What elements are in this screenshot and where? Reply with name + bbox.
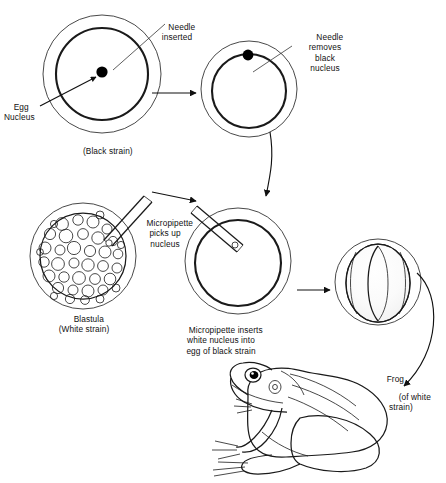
stage-5-embryo bbox=[335, 239, 421, 325]
frog-body bbox=[248, 368, 388, 457]
nuclear-transplantation-figure: Needle inserted Egg Nucleus (Black strai… bbox=[0, 0, 446, 483]
label-micropipette-inserts: Micropipette inserts white nucleus into … bbox=[163, 315, 279, 366]
label-needle-inserted: Needle inserted bbox=[140, 12, 214, 53]
label-needle-removes-black-nucleus: Needle removes black nucleus bbox=[292, 22, 358, 83]
stage-3-blastula bbox=[30, 203, 136, 309]
label-micropipette-picks-up: Micropipette picks up nucleus bbox=[128, 208, 202, 259]
frog-front-leg bbox=[236, 410, 272, 447]
diagram-canvas bbox=[0, 0, 446, 483]
arrow-pipette-transfer bbox=[152, 192, 196, 201]
label-egg-nucleus: Egg Nucleus bbox=[4, 92, 52, 133]
label-of-white-strain: (of white strain) bbox=[389, 382, 445, 423]
removed-black-nucleus bbox=[243, 50, 254, 61]
stage-6-adult-frog bbox=[212, 362, 387, 476]
frog-tympanum bbox=[269, 381, 281, 394]
stage-2-enucleation bbox=[201, 41, 297, 137]
frog-hind-leg bbox=[291, 416, 379, 472]
label-blastula-white-strain: Blastula (White strain) bbox=[38, 304, 130, 345]
egg-nucleus-black bbox=[96, 66, 107, 77]
arrow-stage2-to-stage4 bbox=[266, 132, 272, 196]
label-black-strain: (Black strain) bbox=[56, 136, 150, 167]
